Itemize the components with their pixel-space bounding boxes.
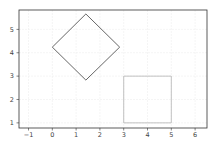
x-axis-ticks: −10123456: [24, 128, 197, 139]
x-tick-label: 4: [145, 131, 149, 139]
x-tick-label: 3: [122, 131, 126, 139]
rotated-square-shape: [52, 14, 119, 80]
chart: −10123456 12345: [0, 0, 218, 147]
x-tick-label: 5: [169, 131, 173, 139]
x-tick-label: 2: [98, 131, 102, 139]
y-tick-label: 5: [10, 26, 14, 34]
x-tick-label: 1: [74, 131, 78, 139]
y-tick-label: 2: [10, 96, 14, 104]
x-tick-label: 6: [193, 131, 197, 139]
y-tick-label: 3: [10, 72, 14, 80]
grid-lines: [19, 10, 207, 128]
y-tick-label: 1: [10, 119, 14, 127]
y-tick-label: 4: [10, 49, 14, 57]
y-axis-ticks: 12345: [10, 26, 19, 127]
axes-frame: [19, 10, 207, 128]
x-tick-label: 0: [50, 131, 54, 139]
x-tick-label: −1: [24, 131, 34, 139]
plot-shapes: [52, 14, 171, 123]
